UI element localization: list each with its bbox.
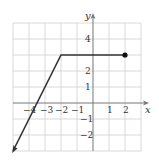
y-tick: −1 bbox=[80, 114, 93, 124]
y-axis-label: y bbox=[84, 10, 91, 21]
x-tick-labels: −4 −3 −2 −1 1 2 bbox=[23, 105, 129, 115]
graph: x y −4 −3 −2 −1 1 2 4 2 1 −1 −2 bbox=[0, 0, 159, 162]
y-tick: 4 bbox=[85, 34, 91, 44]
x-axis-label: x bbox=[145, 104, 151, 115]
y-tick: 2 bbox=[85, 66, 91, 76]
x-tick: 2 bbox=[123, 105, 129, 115]
y-tick: 1 bbox=[85, 82, 91, 92]
piecewise-line bbox=[15, 55, 125, 147]
x-tick: −3 bbox=[40, 105, 54, 115]
x-tick: 1 bbox=[107, 105, 113, 115]
y-tick: −2 bbox=[80, 130, 93, 140]
x-tick: −2 bbox=[55, 105, 68, 115]
grid bbox=[13, 23, 141, 151]
closed-endpoint-dot bbox=[122, 52, 127, 57]
